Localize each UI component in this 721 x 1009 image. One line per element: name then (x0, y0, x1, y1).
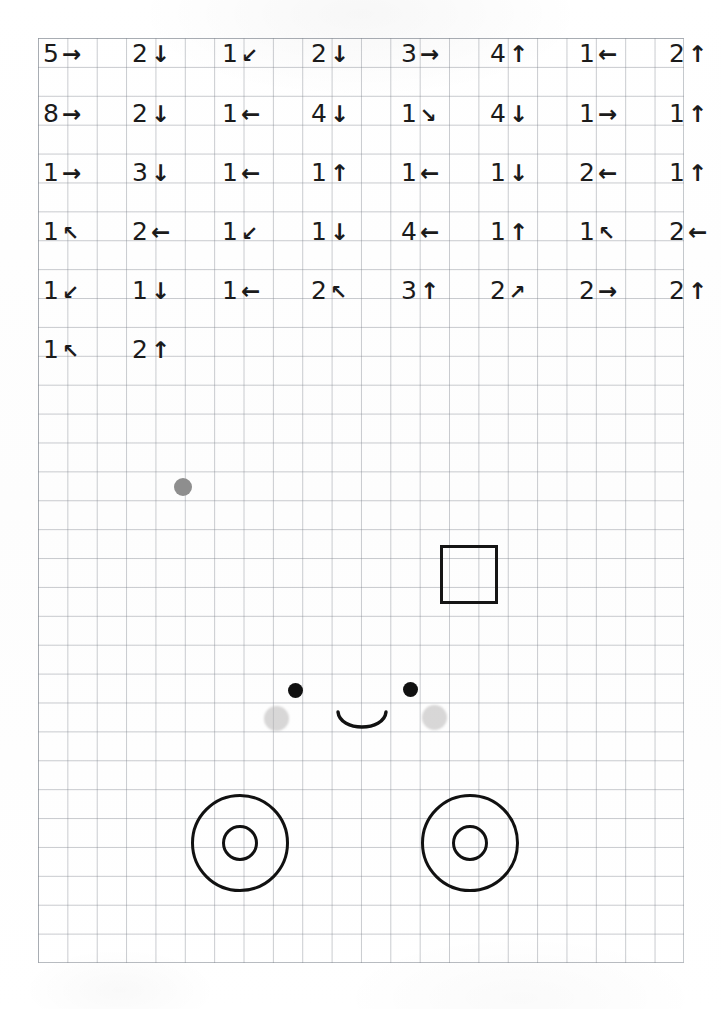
instruction-cell: 3↑ (401, 276, 439, 305)
arrow-right-icon: → (420, 41, 439, 67)
instruction-cell: 1↑ (669, 99, 707, 128)
arrow-down-left-icon: ↙ (241, 221, 258, 245)
instruction-count: 2 (132, 39, 148, 68)
arrow-up-left-icon: ↖ (598, 221, 615, 245)
arrow-left-icon: ← (241, 278, 260, 304)
instruction-row: 1↖2↑ (38, 335, 684, 364)
wheel-right-hub (452, 825, 488, 861)
instruction-cell: 2← (579, 158, 617, 187)
instruction-count: 2 (311, 276, 327, 305)
arrow-left-icon: ← (151, 219, 170, 245)
instruction-row: 1→3↓1←1↑1←1↓2←1↑ (38, 158, 684, 187)
instruction-cell: 1↓ (311, 217, 349, 246)
instruction-count: 8 (43, 99, 59, 128)
instruction-count: 1 (579, 39, 595, 68)
arrow-up-right-icon: ↗ (509, 280, 526, 304)
arrow-down-right-icon: ↘ (420, 103, 437, 127)
instruction-count: 5 (43, 39, 59, 68)
arrow-down-icon: ↓ (151, 278, 170, 304)
arrow-down-icon: ↓ (151, 41, 170, 67)
instruction-count: 2 (669, 276, 685, 305)
instruction-count: 1 (222, 39, 238, 68)
instruction-count: 2 (132, 99, 148, 128)
instruction-count: 1 (222, 158, 238, 187)
arrow-down-icon: ↓ (151, 101, 170, 127)
arrow-up-icon: ↑ (688, 160, 707, 186)
arrow-down-left-icon: ↙ (241, 43, 258, 67)
arrow-up-icon: ↑ (420, 278, 439, 304)
instruction-cell: 4↑ (490, 39, 528, 68)
instruction-cell: 4← (401, 217, 439, 246)
arrow-left-icon: ← (420, 219, 439, 245)
instruction-count: 3 (401, 39, 417, 68)
instruction-cell: 1↓ (490, 158, 528, 187)
arrow-left-icon: ← (598, 41, 617, 67)
instruction-cell: 5→ (43, 39, 81, 68)
arrow-up-icon: ↑ (688, 101, 707, 127)
instruction-cell: 2↗ (490, 276, 526, 305)
instruction-cell: 3↓ (132, 158, 170, 187)
arrow-left-icon: ← (598, 160, 617, 186)
arrow-down-icon: ↓ (330, 219, 349, 245)
instruction-count: 1 (43, 335, 59, 364)
instruction-cell: 3→ (401, 39, 439, 68)
arrow-down-icon: ↓ (509, 101, 528, 127)
arrow-left-icon: ← (420, 160, 439, 186)
arrow-right-icon: → (598, 278, 617, 304)
instruction-cell: 2↑ (132, 335, 170, 364)
instruction-count: 1 (490, 158, 506, 187)
arrow-up-left-icon: ↖ (62, 339, 79, 363)
instruction-cell: 2→ (579, 276, 617, 305)
instruction-count: 1 (669, 99, 685, 128)
arrow-down-icon: ↓ (330, 41, 349, 67)
instruction-cell: 1← (579, 39, 617, 68)
instruction-cell: 1← (222, 99, 260, 128)
instruction-count: 1 (222, 217, 238, 246)
instruction-count: 1 (490, 217, 506, 246)
instruction-cell: 1→ (43, 158, 81, 187)
eye-left-mark (288, 683, 303, 698)
instruction-cell: 1↙ (222, 39, 258, 68)
instruction-row: 8→2↓1←4↓1↘4↓1→1↑ (38, 99, 684, 128)
instruction-cell: 1↖ (579, 217, 615, 246)
instruction-count: 3 (401, 276, 417, 305)
arrow-right-icon: → (62, 160, 81, 186)
instruction-cell: 1↘ (401, 99, 437, 128)
arrow-left-icon: ← (688, 219, 707, 245)
instruction-cell: 2← (669, 217, 707, 246)
instruction-cell: 1→ (579, 99, 617, 128)
arrow-right-icon: → (62, 101, 81, 127)
instruction-row: 5→2↓1↙2↓3→4↑1←2↑ (38, 39, 684, 68)
instruction-cell: 2↓ (311, 39, 349, 68)
arrow-up-icon: ↑ (509, 41, 528, 67)
instruction-count: 2 (132, 217, 148, 246)
instruction-count: 2 (311, 39, 327, 68)
instruction-count: 4 (401, 217, 417, 246)
instruction-count: 2 (490, 276, 506, 305)
arrow-up-left-icon: ↖ (330, 280, 347, 304)
instruction-count: 3 (132, 158, 148, 187)
cheek-right-mark (422, 705, 447, 730)
instruction-count: 1 (43, 276, 59, 305)
wheel-left-hub (222, 825, 258, 861)
instruction-cell: 4↓ (490, 99, 528, 128)
arrow-down-icon: ↓ (151, 160, 170, 186)
instruction-cell: 1↓ (132, 276, 170, 305)
gray-dot-mark (174, 478, 192, 496)
instruction-count: 1 (43, 217, 59, 246)
instruction-cell: 1↙ (43, 276, 79, 305)
instruction-cell: 4↓ (311, 99, 349, 128)
arrow-right-icon: → (62, 41, 81, 67)
instruction-cell: 2↑ (669, 276, 707, 305)
arrow-down-left-icon: ↙ (62, 280, 79, 304)
arrow-down-icon: ↓ (509, 160, 528, 186)
instruction-count: 2 (669, 217, 685, 246)
instruction-cell: 2← (132, 217, 170, 246)
instruction-cell: 1↑ (311, 158, 349, 187)
instruction-cell: 1↖ (43, 335, 79, 364)
arrow-up-icon: ↑ (688, 278, 707, 304)
instruction-cell: 8→ (43, 99, 81, 128)
instruction-row: 1↖2←1↙1↓4←1↑1↖2← (38, 217, 684, 246)
smile-mark (336, 710, 388, 740)
instruction-row: 1↙1↓1←2↖3↑2↗2→2↑ (38, 276, 684, 305)
